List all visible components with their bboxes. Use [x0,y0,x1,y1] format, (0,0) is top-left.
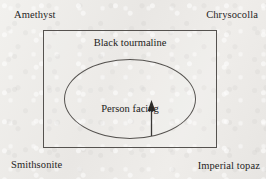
room-rectangle: Black tourmaline Person facing [43,30,217,148]
diagram-canvas: Amethyst Chrysocolla Smithsonite Imperia… [0,0,266,179]
corner-label-top-right: Chrysocolla [206,9,258,21]
corner-label-bottom-right: Imperial topaz [198,160,260,172]
person-facing-label: Person facing [65,102,195,115]
corner-label-bottom-left: Smithsonite [11,159,62,171]
corner-label-top-left: Amethyst [14,9,56,21]
room-label: Black tourmaline [44,36,216,49]
table-ellipse: Person facing [64,59,196,139]
